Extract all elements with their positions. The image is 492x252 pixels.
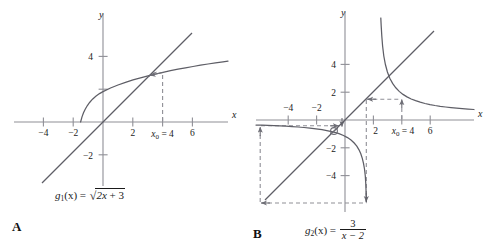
x-axis-label-a: x	[231, 109, 237, 120]
identity-line-a	[42, 33, 192, 183]
y-axis-label-b: y	[340, 7, 346, 18]
formula-b-numerator: 3	[340, 218, 366, 229]
y-axis-label-a: y	[98, 9, 104, 20]
two-panel-function-iteration-figure: x y −4 −2 2 6 4 −2 x0 = 4 g1(x) = √2x + …	[0, 0, 492, 252]
panel-a: x y −4 −2 2 6 4 −2 x0 = 4 g1(x) = √2x + …	[0, 0, 246, 252]
x-tick-label--4-b: −4	[283, 103, 293, 113]
panel-b: x y −4 −2 2 6 4 2 −2 −4 x0 = 4 g2(x) = 3…	[246, 0, 492, 252]
curve-g2-right	[381, 18, 474, 110]
formula-b: g2(x) = 3x − 2	[305, 218, 367, 242]
formula-b-denominator: x − 2	[340, 229, 366, 241]
panel-a-letter: A	[12, 219, 22, 235]
formula-a-sqrt: √2x + 3	[89, 188, 126, 201]
x-tick-label-6-b: 6	[428, 126, 433, 136]
y-tick-label--4-b: −4	[326, 171, 336, 181]
x-tick-label-2-a: 2	[130, 128, 135, 138]
x-axis-label-b: x	[477, 108, 483, 119]
x-tick-label-2-b: 2	[373, 126, 378, 136]
panel-b-letter: B	[253, 226, 262, 242]
panel-a-axes	[14, 14, 228, 186]
formula-a-radicand-a: 2x	[96, 189, 106, 201]
panel-b-plot: x y −4 −2 2 6 4 2 −2 −4 x0 = 4	[246, 0, 492, 252]
y-tick-label-2-b: 2	[331, 88, 336, 98]
y-tick-label--2-a: −2	[83, 151, 93, 161]
x-tick-label-6-a: 6	[190, 128, 195, 138]
panel-a-plot: x y −4 −2 2 6 4 −2 x0 = 4	[0, 0, 246, 252]
y-tick-label-4-b: 4	[331, 60, 336, 70]
x-tick-label--4-a: −4	[38, 128, 48, 138]
x0-label-b: x0 = 4	[391, 126, 415, 138]
curve-g2-left	[256, 125, 366, 202]
formula-a-radicand-plus: +	[107, 189, 119, 201]
y-tick-label--2-b: −2	[326, 144, 336, 154]
formula-a-eq: (x) =	[64, 189, 89, 201]
x0-label-a: x0 = 4	[150, 129, 174, 141]
identity-line-b	[265, 31, 434, 200]
x-tick-label--2-a: −2	[68, 128, 78, 138]
y-tick-label-4-a: 4	[88, 52, 93, 62]
formula-a-radicand: 2x + 3	[95, 188, 125, 201]
formula-a-radicand-b: 3	[118, 189, 124, 201]
formula-b-eq: (x) =	[314, 224, 339, 236]
x-tick-label--2-b: −2	[312, 103, 322, 113]
formula-b-fraction: 3x − 2	[340, 218, 366, 242]
formula-a: g1(x) = √2x + 3	[55, 188, 125, 203]
